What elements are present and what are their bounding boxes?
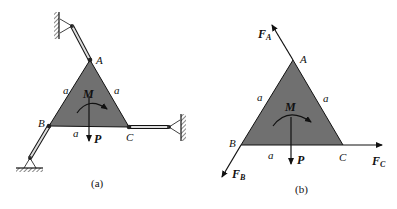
label-force-p: P <box>297 153 305 167</box>
label-point-a: A <box>95 54 103 66</box>
label-side-bc: a <box>268 149 274 161</box>
label-side-ab: a <box>63 84 69 96</box>
figure-b: A B C a a a M P FA FB FC (b) <box>222 25 386 196</box>
pin-joint-b <box>47 124 52 129</box>
pin-joint-a <box>88 58 93 63</box>
caption-b: (b) <box>295 183 308 196</box>
pin-joint-c <box>127 125 132 130</box>
diagram-canvas: A B C a a a M P (a) A B C a a a M P FA F… <box>0 0 397 209</box>
label-force-fa: FA <box>257 27 272 42</box>
label-force-fb: FB <box>231 167 246 182</box>
wall-hatch-icon <box>181 114 186 141</box>
caption-a: (a) <box>91 177 104 190</box>
label-moment-m: M <box>284 100 296 114</box>
label-side-ac: a <box>114 84 120 96</box>
label-force-p: P <box>94 132 102 146</box>
label-side-bc: a <box>73 127 79 139</box>
label-force-fc: FC <box>371 154 386 169</box>
label-point-b: B <box>38 117 45 129</box>
link-c <box>129 114 186 141</box>
label-point-c: C <box>126 131 134 143</box>
label-point-c: C <box>339 151 347 163</box>
force-fa-arrow-icon <box>272 25 293 60</box>
ground-hatch-icon <box>16 168 43 172</box>
label-moment-m: M <box>82 87 94 101</box>
label-point-b: B <box>229 137 236 149</box>
link-b <box>16 126 49 172</box>
link-a <box>54 12 90 60</box>
label-side-ac: a <box>323 92 329 104</box>
label-side-ab: a <box>257 91 263 103</box>
label-point-a: A <box>299 53 307 65</box>
figure-a: A B C a a a M P (a) <box>16 12 186 190</box>
wall-hatch-icon <box>54 12 59 39</box>
